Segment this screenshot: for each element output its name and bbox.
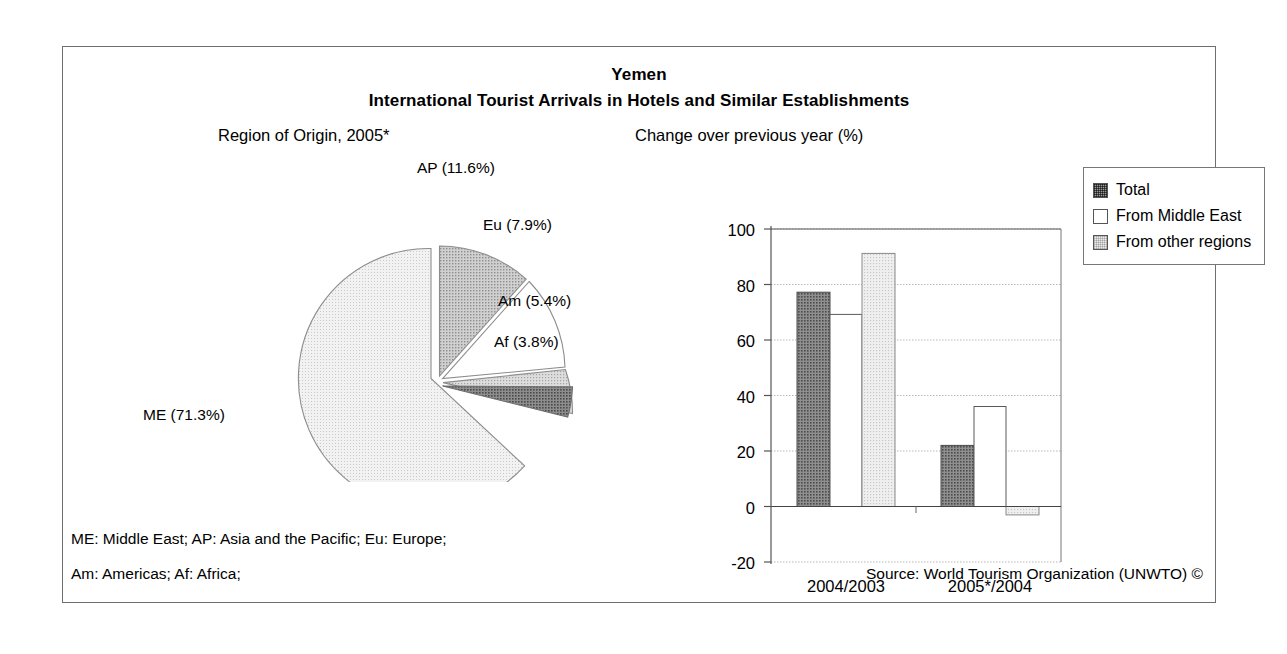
y-tick-neg20: -20 — [711, 555, 755, 571]
legend-label-total: Total — [1116, 181, 1150, 199]
legend-swatch-other-regions-icon — [1093, 235, 1108, 250]
bar-other-regions-2004 — [862, 253, 895, 506]
legend-item-other-regions: From other regions — [1093, 229, 1251, 255]
legend-label-middle-east: From Middle East — [1116, 207, 1241, 225]
footnote-abbreviations-line-2: Am: Americas; Af: Africa; — [71, 565, 241, 583]
y-tick-0: 0 — [711, 500, 755, 516]
legend-label-other-regions: From other regions — [1116, 233, 1251, 251]
figure-frame: Yemen International Tourist Arrivals in … — [62, 46, 1216, 603]
pie-label-me: ME (71.3%) — [143, 406, 225, 424]
pie-chart: AP (11.6%) Eu (7.9%) Am (5.4%) Af (3.8%)… — [143, 152, 613, 482]
legend-item-total: Total — [1093, 177, 1251, 203]
source-note: Source: World Tourism Organization (UNWT… — [866, 565, 1203, 583]
footnote-abbreviations-line-1: ME: Middle East; AP: Asia and the Pacifi… — [71, 530, 447, 548]
pie-panel-title: Region of Origin, 2005* — [218, 126, 390, 145]
chart-legend: Total From Middle East From other region… — [1083, 167, 1265, 265]
bar-middle-east-2005 — [974, 407, 1006, 507]
bar-chart: 100 80 60 40 20 0 -20 2004/2003 2005*/20… — [633, 152, 1193, 582]
pie-chart-svg — [143, 152, 613, 482]
chart-title: Yemen — [63, 65, 1215, 85]
y-tick-60: 60 — [711, 333, 755, 349]
pie-label-eu: Eu (7.9%) — [483, 216, 552, 234]
bar-panel-title: Change over previous year (%) — [635, 126, 863, 145]
y-tick-80: 80 — [711, 278, 755, 294]
y-tick-20: 20 — [711, 444, 755, 460]
bar-middle-east-2004 — [830, 314, 862, 506]
bar-other-regions-2005 — [1006, 507, 1039, 515]
chart-subtitle: International Tourist Arrivals in Hotels… — [63, 91, 1215, 111]
y-axis-ticks — [764, 229, 771, 562]
pie-label-ap: AP (11.6%) — [417, 159, 495, 177]
pie-label-af: Af (3.8%) — [494, 333, 559, 351]
y-tick-40: 40 — [711, 389, 755, 405]
legend-swatch-middle-east-icon — [1093, 209, 1108, 224]
bar-total-2004 — [797, 292, 830, 506]
legend-item-middle-east: From Middle East — [1093, 203, 1251, 229]
bar-total-2005 — [941, 445, 974, 506]
legend-swatch-total-icon — [1093, 183, 1108, 198]
pie-label-am: Am (5.4%) — [498, 292, 571, 310]
y-tick-100: 100 — [711, 222, 755, 238]
